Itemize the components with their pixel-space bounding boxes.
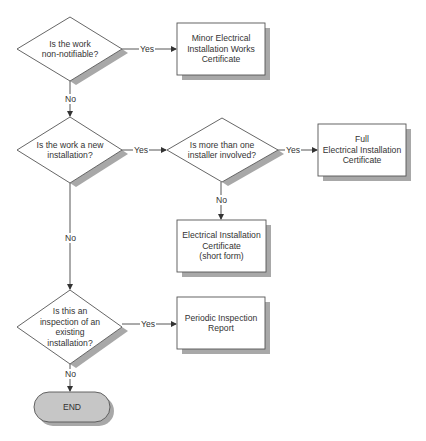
- edge-label-q2-no: No: [64, 233, 77, 243]
- label-line: inspection of an: [40, 317, 100, 328]
- label-line: Certificate: [202, 54, 241, 65]
- label-line: Periodic Inspection: [185, 313, 258, 324]
- label-line: Certificate: [202, 241, 241, 252]
- edge-label-q3-yes: Yes: [285, 145, 301, 155]
- decision-non-notifiable-label: Is the work non-notifiable?: [30, 34, 110, 64]
- terminal-end-label: END: [34, 392, 110, 422]
- label-line: installation?: [47, 338, 92, 349]
- decision-inspection-label: Is this an inspection of an existing ins…: [30, 305, 110, 349]
- label-line: Is more than one: [190, 140, 255, 151]
- label-line: installation?: [47, 150, 92, 161]
- edge-label-q4-yes: Yes: [140, 319, 156, 329]
- edge-label-q2-yes: Yes: [133, 145, 149, 155]
- label-line: non-notifiable?: [42, 49, 98, 60]
- process-short-cert-label: Electrical Installation Certificate (sho…: [177, 220, 266, 272]
- edge-label-q1-yes: Yes: [139, 44, 155, 54]
- label-line: existing: [55, 327, 84, 338]
- label-line: Certificate: [343, 155, 382, 166]
- label-line: Installation Works: [187, 44, 255, 55]
- label-line: Is this an: [53, 306, 87, 317]
- label-line: Electrical Installation: [182, 230, 260, 241]
- edge-label-q3-no: No: [215, 195, 228, 205]
- edge-label-q1-no: No: [64, 94, 77, 104]
- label-line: (short form): [199, 251, 243, 262]
- label-line: Electrical Installation: [323, 145, 401, 156]
- decision-multi-installer-label: Is more than one installer involved?: [177, 135, 267, 165]
- decision-new-installation-label: Is the work a new installation?: [25, 135, 115, 165]
- label-line: Is the work a new: [37, 140, 104, 151]
- process-periodic-report-label: Periodic Inspection Report: [177, 297, 265, 349]
- label-line: Minor Electrical: [192, 33, 251, 44]
- label-line: installer involved?: [188, 150, 256, 161]
- process-full-cert-label: Full Electrical Installation Certificate: [318, 124, 406, 176]
- label-line: Report: [208, 323, 234, 334]
- edge-label-q4-no: No: [64, 369, 77, 379]
- process-minor-cert-label: Minor Electrical Installation Works Cert…: [177, 23, 265, 75]
- label-line: Full: [355, 134, 369, 145]
- label-line: Is the work: [49, 39, 91, 50]
